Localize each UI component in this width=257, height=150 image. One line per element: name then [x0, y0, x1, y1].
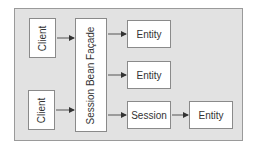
connector-arrows	[0, 0, 257, 150]
